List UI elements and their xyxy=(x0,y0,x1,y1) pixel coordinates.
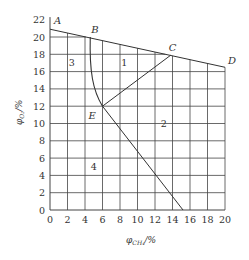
x-tick-label: 12 xyxy=(149,214,161,225)
x-tick-label: 8 xyxy=(117,214,123,225)
y-tick-label: 18 xyxy=(33,49,45,60)
y-tick-label: 20 xyxy=(33,32,45,43)
y-tick-label: 6 xyxy=(39,153,45,164)
x-tick-label: 14 xyxy=(166,214,178,225)
point-label-D: D xyxy=(227,55,236,66)
x-tick-label: 0 xyxy=(47,214,53,225)
axis-ticks: 024681012141618200246810121416182022 xyxy=(33,14,231,225)
x-tick-label: 6 xyxy=(99,214,105,225)
x-tick-label: 20 xyxy=(219,214,231,225)
line-EC xyxy=(103,55,171,106)
x-tick-label: 18 xyxy=(201,214,213,225)
region-label-2: 2 xyxy=(161,118,167,129)
point-label-E: E xyxy=(88,110,97,121)
x-tick-label: 16 xyxy=(184,214,196,225)
y-tick-label: 14 xyxy=(33,83,45,94)
point-label-B: B xyxy=(90,24,98,35)
y-axis-label: φO₂/% xyxy=(14,100,25,125)
x-axis-label: φCH₄/% xyxy=(126,235,156,246)
region-label-1: 1 xyxy=(121,57,127,68)
grid xyxy=(50,17,225,210)
point-labels: ABCDE xyxy=(53,15,236,121)
region-label-3: 3 xyxy=(69,57,75,68)
region-label-4: 4 xyxy=(91,161,97,172)
diagram-canvas: 024681012141618200246810121416182022 ABC… xyxy=(0,0,249,260)
x-tick-label: 10 xyxy=(131,214,143,225)
y-tick-label: 10 xyxy=(33,118,45,129)
y-tick-label: 2 xyxy=(39,187,45,198)
y-tick-label: 16 xyxy=(33,66,45,77)
y-tick-label: 22 xyxy=(33,14,45,25)
point-label-C: C xyxy=(169,42,177,53)
y-tick-label: 12 xyxy=(33,101,45,112)
x-tick-label: 2 xyxy=(64,214,70,225)
y-tick-label: 0 xyxy=(39,205,45,216)
region-labels: 1234 xyxy=(69,57,167,172)
y-tick-label: 4 xyxy=(39,170,45,181)
x-tick-label: 4 xyxy=(82,214,88,225)
point-label-A: A xyxy=(53,15,61,26)
y-tick-label: 8 xyxy=(39,135,45,146)
